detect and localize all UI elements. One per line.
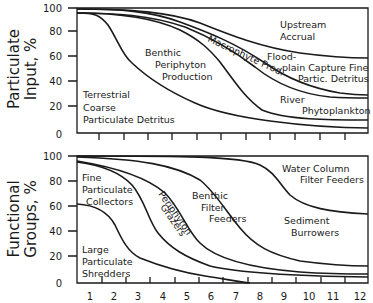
label-terrestrial-2: Coarse bbox=[83, 102, 116, 113]
label-benthic-filter-1: Benthic bbox=[192, 190, 228, 201]
bottom-ytick-80: 80 bbox=[49, 176, 62, 187]
top-ytick-0: 0 bbox=[56, 129, 62, 140]
xtick-10: 10 bbox=[303, 291, 316, 302]
label-flood-3: Partic. Detritus bbox=[298, 73, 369, 84]
label-upstream-1: Upstream bbox=[280, 19, 326, 30]
label-upstream-2: Accrual bbox=[280, 31, 315, 42]
top-ytick-40: 40 bbox=[49, 76, 62, 87]
xtick-11: 11 bbox=[327, 291, 340, 302]
bottom-ylabel-line1: Functional bbox=[5, 180, 23, 257]
top-ytick-100: 100 bbox=[43, 3, 62, 14]
curve-upstream-accrual bbox=[77, 9, 368, 58]
top-ylabel-line1: Particulate bbox=[5, 29, 23, 109]
xtick-6: 6 bbox=[208, 291, 214, 302]
top-ylabel-line2: Input, % bbox=[22, 38, 40, 101]
label-fine-1: Fine bbox=[82, 172, 101, 183]
bottom-ytick-0: 0 bbox=[56, 278, 62, 289]
xtick-1: 1 bbox=[87, 291, 93, 302]
label-fine-3: Collectors bbox=[86, 196, 133, 207]
top-xticks bbox=[99, 133, 345, 140]
xtick-5: 5 bbox=[184, 291, 190, 302]
label-large-3: Shredders bbox=[82, 268, 130, 279]
label-sediment-2: Burrowers bbox=[291, 227, 339, 238]
bottom-panel: Functional Groups, % 100 80 60 40 20 0 1… bbox=[5, 151, 368, 302]
bottom-xticks bbox=[102, 277, 345, 283]
label-benthic-filter-2: Filter bbox=[201, 202, 225, 213]
label-flood-2: plain Capture Fine bbox=[282, 62, 368, 73]
bottom-yticks bbox=[68, 156, 77, 256]
xtick-8: 8 bbox=[257, 291, 263, 302]
top-ytick-80: 80 bbox=[49, 26, 62, 37]
label-benthic-2: Periphyton bbox=[155, 59, 206, 70]
xtick-12: 12 bbox=[354, 291, 367, 302]
xtick-4: 4 bbox=[160, 291, 166, 302]
bottom-ytick-60: 60 bbox=[49, 201, 62, 212]
top-yticks bbox=[68, 8, 77, 106]
label-fine-2: Particulate bbox=[82, 184, 133, 195]
label-benthic-filter-3: Feeders bbox=[209, 213, 246, 224]
label-water-column-2: Filter Feeders bbox=[300, 174, 364, 185]
label-benthic-1: Benthic bbox=[145, 47, 181, 58]
label-water-column-1: Water Column bbox=[282, 163, 349, 174]
bottom-ytick-20: 20 bbox=[49, 251, 62, 262]
river-continuum-diagram: Particulate Input, % 100 80 60 40 20 0 T… bbox=[0, 0, 373, 303]
xtick-2: 2 bbox=[111, 291, 117, 302]
top-panel: Particulate Input, % 100 80 60 40 20 0 T… bbox=[5, 3, 370, 140]
label-river-1: River bbox=[280, 94, 305, 105]
label-terrestrial-1: Terrestrial bbox=[82, 89, 130, 100]
bottom-ytick-40: 40 bbox=[49, 226, 62, 237]
label-terrestrial-3: Particulate Detritus bbox=[83, 114, 175, 125]
label-large-1: Large bbox=[82, 244, 109, 255]
label-large-2: Particulate bbox=[82, 256, 133, 267]
label-flood-1: Flood- bbox=[267, 51, 296, 62]
top-ytick-20: 20 bbox=[49, 101, 62, 112]
top-ytick-60: 60 bbox=[49, 51, 62, 62]
bottom-ytick-100: 100 bbox=[43, 151, 62, 162]
label-benthic-3: Production bbox=[162, 71, 213, 82]
xtick-3: 3 bbox=[135, 291, 141, 302]
bottom-ylabel-line2: Groups, % bbox=[22, 180, 40, 257]
label-river-2: Phytoplankton bbox=[302, 105, 370, 116]
xtick-9: 9 bbox=[281, 291, 287, 302]
label-sediment-1: Sediment bbox=[284, 215, 330, 226]
xtick-7: 7 bbox=[233, 291, 239, 302]
